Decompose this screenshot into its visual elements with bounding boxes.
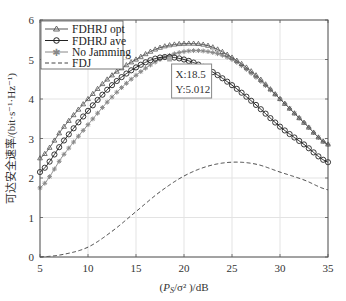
- asterisk-marker-icon: [105, 100, 110, 105]
- asterisk-marker-icon: [47, 174, 52, 179]
- asterisk-marker-icon: [42, 181, 47, 186]
- asterisk-marker-icon: [66, 146, 71, 151]
- datatip-x: X:18.5: [176, 68, 207, 80]
- x-tick-label: 5: [37, 262, 43, 274]
- asterisk-marker-icon: [215, 51, 220, 56]
- legend-label: FDJ: [72, 57, 92, 69]
- asterisk-marker-icon: [90, 117, 95, 122]
- asterisk-marker-icon: [191, 48, 196, 53]
- asterisk-marker-icon: [52, 167, 57, 172]
- asterisk-marker-icon: [182, 49, 187, 54]
- asterisk-marker-icon: [210, 50, 215, 55]
- legend-label: FDHRJ ave: [72, 35, 126, 47]
- asterisk-marker-icon: [119, 85, 124, 90]
- asterisk-marker-icon: [206, 49, 211, 54]
- y-tick-label: 0: [29, 251, 35, 263]
- asterisk-marker-icon: [186, 49, 191, 54]
- asterisk-marker-icon: [201, 49, 206, 54]
- y-tick-label: 5: [29, 54, 35, 66]
- asterisk-marker-icon: [134, 73, 139, 78]
- asterisk-marker-icon: [143, 66, 148, 71]
- asterisk-marker-icon: [62, 152, 67, 157]
- x-tick-label: 30: [275, 262, 287, 274]
- y-tick-label: 3: [29, 133, 35, 145]
- datatip-marker: [167, 57, 172, 62]
- legend: FDHRJ opt FDHRJ ave ✱ No Jamming FDJ: [41, 21, 131, 69]
- datatip[interactable]: X:18.5 Y:5.012: [172, 64, 212, 98]
- x-tick-label: 35: [323, 262, 335, 274]
- x-tick-label: 15: [131, 262, 143, 274]
- asterisk-marker-icon: ✱: [52, 47, 60, 58]
- chart-canvas: 51015202530350123456 X:18.5 Y:5.012 FDHR…: [0, 0, 346, 301]
- y-tick-label: 4: [29, 93, 35, 105]
- asterisk-marker-icon: [124, 81, 129, 86]
- asterisk-marker-icon: [95, 111, 100, 116]
- x-tick-label: 10: [83, 262, 95, 274]
- asterisk-marker-icon: [81, 128, 86, 133]
- asterisk-marker-icon: [138, 69, 143, 74]
- y-tick-label: 2: [29, 172, 35, 184]
- x-tick-label: 25: [227, 262, 239, 274]
- datatip-y: Y:5.012: [176, 83, 211, 95]
- y-axis-label: 可达安全速率/(bit·s⁻¹·Hz⁻¹): [4, 73, 18, 204]
- x-axis-label: (PS/σ² )/dB: [160, 281, 209, 295]
- x-tick-label: 20: [179, 262, 191, 274]
- y-tick-label: 1: [29, 212, 35, 224]
- asterisk-marker-icon: [100, 105, 105, 110]
- asterisk-marker-icon: [86, 122, 91, 127]
- asterisk-marker-icon: [57, 159, 62, 164]
- asterisk-marker-icon: [76, 134, 81, 139]
- asterisk-marker-icon: [110, 95, 115, 100]
- y-tick-label: 6: [29, 14, 35, 26]
- asterisk-marker-icon: [177, 50, 182, 55]
- asterisk-marker-icon: [129, 77, 134, 82]
- asterisk-marker-icon: [71, 140, 76, 145]
- asterisk-marker-icon: [114, 90, 119, 95]
- asterisk-marker-icon: [196, 48, 201, 53]
